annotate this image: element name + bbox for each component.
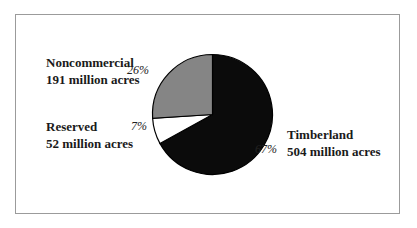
pie-chart [150,52,275,177]
label-timberland-name: Timberland [287,126,381,143]
figure-canvas: Noncommercial 191 million acres Reserved… [0,0,417,228]
label-timberland-value: 504 million acres [287,143,381,160]
label-noncommercial-value: 191 million acres [46,71,140,88]
percent-label-reserved: 7% [131,119,147,134]
label-timberland: Timberland 504 million acres [287,126,381,160]
pie-slice-noncommercial [153,55,213,119]
percent-label-noncommercial: 26% [127,63,149,78]
label-noncommercial-name: Noncommercial [46,54,140,71]
label-reserved-value: 52 million acres [46,135,133,152]
label-reserved: Reserved 52 million acres [46,118,133,152]
label-reserved-name: Reserved [46,118,133,135]
percent-label-timberland: 67% [255,142,277,157]
label-noncommercial: Noncommercial 191 million acres [46,54,140,88]
